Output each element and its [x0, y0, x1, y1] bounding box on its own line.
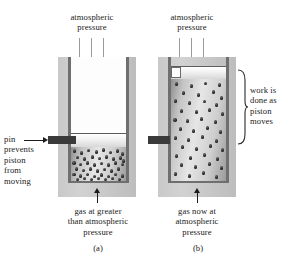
panel-b-cylinder-wall-right — [226, 57, 229, 182]
panel-a-cylinder-wall-right — [126, 57, 129, 182]
panel-b-gas-pressure-label: gas now at atmospheric pressure — [152, 206, 242, 237]
panel-a-cylinder-bore — [71, 57, 127, 133]
panel-a-pin-arrow-head — [43, 137, 48, 143]
panel-a-atmospheric-pressure-label: atmospheric pressure — [52, 12, 132, 33]
panel-a-gas-arrow-line — [97, 192, 98, 203]
panel-a-gas-pressure-label: gas at greater than atmospheric pressure — [48, 206, 148, 237]
figure-gas-piston-work: atmospheric pressure — [0, 0, 287, 267]
panel-b-caption: (b) — [163, 243, 233, 253]
panel-b-work-brace — [236, 68, 248, 146]
panel-b-work-label: work is done as piston moves — [250, 85, 287, 127]
panel-b-pin — [148, 136, 170, 144]
panel-a-gas-chamber — [71, 147, 127, 181]
panel-b-piston-pin-hole — [171, 67, 181, 78]
panel-b-gas-chamber — [171, 79, 227, 181]
panel-a-pin-arrow-line — [24, 140, 44, 141]
panel-a-pin-label: pin prevents piston from moving — [4, 134, 46, 186]
panel-a-caption: (a) — [63, 243, 133, 253]
panel-a-piston — [71, 133, 127, 148]
panel-a-pin — [48, 136, 76, 144]
panel-b-atmospheric-pressure-label: atmospheric pressure — [152, 12, 232, 33]
panel-b-gas-arrow-line — [197, 192, 198, 203]
